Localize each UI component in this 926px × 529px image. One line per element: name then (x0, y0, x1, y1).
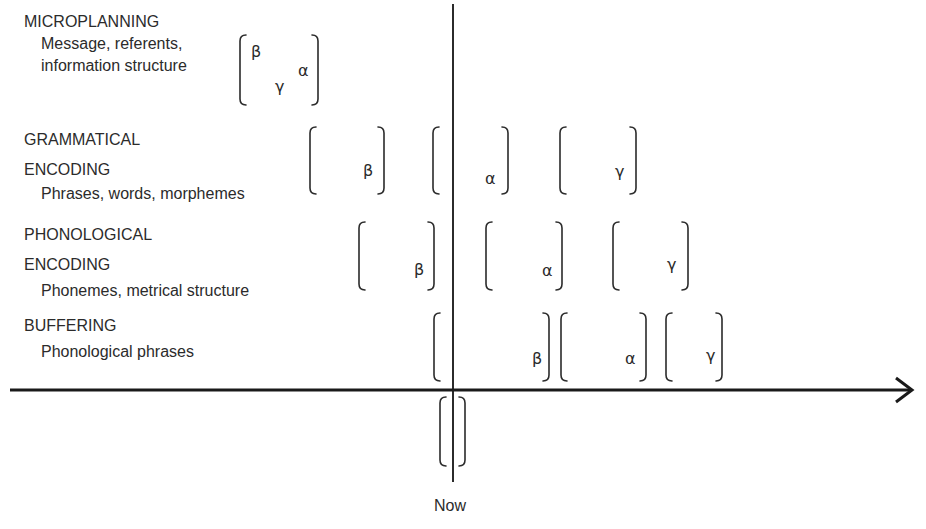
unit-symbol: β (414, 261, 424, 279)
level-description: Phonemes, metrical structure (41, 281, 249, 301)
level-heading: MICROPLANNING (24, 12, 159, 32)
level-heading: ENCODING (24, 160, 110, 180)
speech-production-timeline-diagram (0, 0, 926, 529)
level-description: Phonological phrases (41, 342, 194, 362)
unit-symbol: α (542, 262, 553, 280)
unit-symbol: β (363, 162, 373, 180)
unit-bracket (613, 222, 688, 290)
bracket-layer (240, 35, 722, 466)
unit-symbol: β (532, 350, 542, 368)
unit-bracket (561, 313, 646, 381)
level-description: information structure (41, 56, 187, 76)
unit-symbol: γ (667, 256, 676, 274)
level-heading: GRAMMATICAL (24, 130, 140, 150)
level-heading: PHONOLOGICAL (24, 225, 152, 245)
unit-bracket (434, 313, 549, 381)
unit-bracket (359, 222, 434, 290)
level-heading: BUFFERING (24, 316, 116, 336)
level-description: Message, referents, (41, 34, 182, 54)
unit-symbol: γ (275, 78, 284, 96)
unit-symbol: α (298, 62, 309, 80)
now-label: Now (434, 497, 466, 515)
unit-symbol: γ (615, 163, 624, 181)
level-heading: ENCODING (24, 255, 110, 275)
unit-symbol: α (485, 170, 496, 188)
level-description: Phrases, words, morphemes (41, 184, 245, 204)
unit-symbol: α (625, 350, 636, 368)
unit-bracket (560, 127, 636, 194)
unit-symbol: γ (706, 347, 715, 365)
unit-symbol: β (251, 43, 261, 61)
unit-bracket (433, 127, 508, 194)
